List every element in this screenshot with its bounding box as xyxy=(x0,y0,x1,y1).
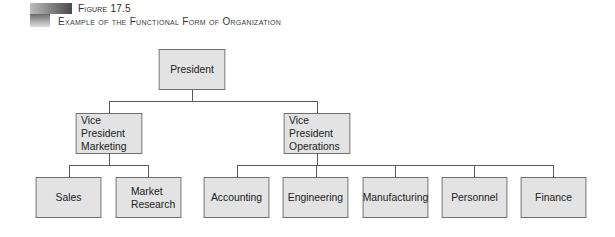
node-label: Personnel xyxy=(451,191,498,204)
node-label: Manufacturing xyxy=(363,191,429,204)
node-sales: Sales xyxy=(36,177,102,218)
connector-vp-marketing-down xyxy=(109,153,110,165)
node-label: Vice President Operations xyxy=(289,114,349,153)
node-vp-marketing: Vice President Marketing xyxy=(76,113,143,154)
node-engineering: Engineering xyxy=(283,177,349,218)
connector-personnel-up xyxy=(474,165,475,177)
node-label: President xyxy=(170,63,214,76)
node-manufacturing: Manufacturing xyxy=(363,177,429,218)
connector-vp-marketing-up xyxy=(109,101,110,113)
connector-engineering-up xyxy=(316,165,317,177)
node-label: Accounting xyxy=(211,191,262,204)
node-label: Engineering xyxy=(288,191,343,204)
connector-vp-operations-down xyxy=(317,153,318,165)
node-personnel: Personnel xyxy=(442,177,508,218)
node-label: Finance xyxy=(535,191,572,204)
node-vp-operations: Vice President Operations xyxy=(284,113,351,154)
connector-vp-operations-up xyxy=(317,101,318,113)
connector-finance-up xyxy=(553,165,554,177)
connector-marketing-horizontal xyxy=(69,165,149,166)
figure-decoration-tab xyxy=(30,14,50,27)
node-label: Sales xyxy=(56,191,82,204)
node-market-research: Market Research xyxy=(116,177,182,218)
connector-president-down xyxy=(192,89,193,101)
connector-sales-up xyxy=(69,165,70,177)
node-label: Vice President Marketing xyxy=(81,114,141,153)
node-label: Market Research xyxy=(131,185,175,211)
connector-manufacturing-up xyxy=(395,165,396,177)
figure-title: Example of the Functional Form of Organi… xyxy=(58,16,281,27)
figure-number: Figure 17.5 xyxy=(78,3,131,14)
node-president: President xyxy=(159,49,226,90)
connector-market-research-up xyxy=(148,165,149,177)
figure-decoration-bar xyxy=(30,3,72,14)
node-accounting: Accounting xyxy=(204,177,270,218)
connector-accounting-up xyxy=(237,165,238,177)
connector-top-horizontal xyxy=(109,101,318,102)
node-finance: Finance xyxy=(521,177,587,218)
